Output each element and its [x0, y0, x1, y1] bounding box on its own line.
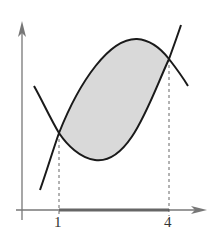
shaded-region [59, 39, 169, 160]
area-diagram [0, 0, 219, 244]
tick-label-4: 4 [164, 214, 172, 231]
tick-label-1: 1 [54, 214, 62, 231]
